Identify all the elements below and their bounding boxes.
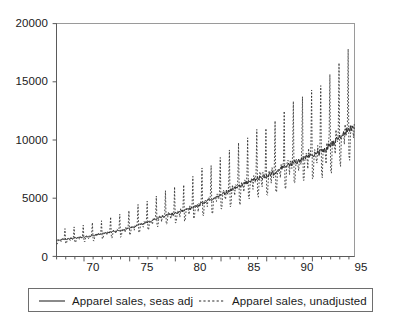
y-tick-label-0: 0: [2, 252, 48, 264]
axis-ticks: [53, 24, 349, 262]
x-tick-label-70: 70: [78, 262, 108, 274]
legend-dashed-line-sample: [199, 296, 225, 306]
x-tick-label-75: 75: [132, 262, 162, 274]
x-tick-label-85: 85: [239, 262, 269, 274]
legend-label-unadjusted: Apparel sales, unadjusted: [232, 295, 367, 307]
series-unadjusted-line: [57, 49, 355, 244]
chart-root: 20000 15000 10000 5000 0 70 75 80 85 90 …: [0, 0, 394, 322]
chart-canvas: [0, 0, 394, 322]
legend-solid-line-sample: [39, 296, 65, 306]
y-tick-label-20000: 20000: [2, 18, 48, 30]
chart-legend: Apparel sales, seas adj Apparel sales, u…: [28, 288, 373, 312]
legend-entry-seas-adj: Apparel sales, seas adj: [39, 289, 193, 313]
legend-entry-unadjusted: Apparel sales, unadjusted: [199, 289, 367, 313]
y-tick-label-5000: 5000: [2, 193, 48, 205]
y-tick-label-15000: 15000: [2, 76, 48, 88]
legend-label-seas-adj: Apparel sales, seas adj: [72, 295, 193, 307]
x-tick-label-80: 80: [185, 262, 215, 274]
x-tick-label-90: 90: [292, 262, 322, 274]
x-tick-label-95: 95: [346, 262, 376, 274]
y-tick-label-10000: 10000: [2, 135, 48, 147]
